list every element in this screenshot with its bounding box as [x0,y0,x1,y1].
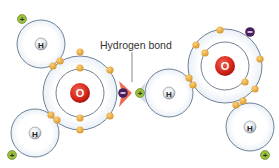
svg-text:H: H [32,130,38,139]
svg-text:+: + [20,15,25,24]
svg-text:H: H [38,41,44,50]
hydrogen-atom-middle-right: H [145,69,193,117]
left-water-molecule: H H O + [8,15,118,161]
positive-charge-icon: + [8,151,17,161]
positive-charge-icon: + [18,15,27,25]
svg-text:H: H [247,124,253,133]
svg-text:H: H [166,90,172,99]
positive-charge-icon: + [136,89,145,99]
svg-text:+: + [263,151,268,160]
hydrogen-bond: + [118,52,146,107]
negative-charge-icon [245,27,255,37]
hydrogen-atom-bottom-right: H [226,103,274,151]
oxygen-atom-right: O [188,29,262,103]
positive-charge-icon: + [261,151,270,161]
svg-text:O: O [76,87,85,99]
svg-text:+: + [138,89,143,98]
svg-text:O: O [221,60,230,72]
water-hydrogen-bond-diagram: H H O + [0,0,279,168]
negative-charge-icon [118,88,128,98]
hydrogen-bond-label: Hydrogen bond [100,39,172,51]
svg-text:+: + [10,151,15,160]
